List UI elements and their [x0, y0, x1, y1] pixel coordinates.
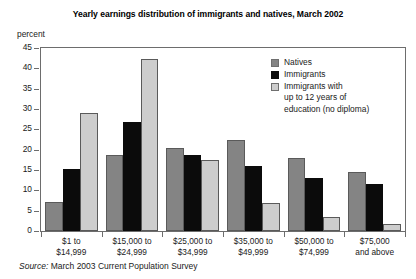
y-axis-tick-label: 10 [23, 184, 32, 194]
bar [366, 184, 384, 231]
x-axis-label-line: and above [344, 247, 405, 258]
bar [348, 172, 366, 231]
legend-label-immigrants-low-education-line2: up to 12 years of [271, 92, 399, 103]
source-text: March 2003 Current Population Survey [48, 261, 197, 271]
x-axis-label-line: $1 to [41, 236, 102, 247]
chart-figure: Yearly earnings distribution of immigran… [0, 0, 416, 279]
x-axis-label: $35,000 to$49,999 [223, 236, 284, 257]
x-axis-separator [405, 232, 406, 237]
bar [305, 178, 323, 231]
legend-swatch-natives [271, 59, 279, 67]
legend-label-immigrants-low-education-line3: education (no diploma) [271, 104, 399, 115]
bar [123, 122, 141, 231]
y-axis-tick-mark [34, 150, 39, 151]
y-axis-unit-label: percent [17, 29, 45, 39]
y-axis-tick-mark [34, 170, 39, 171]
bar-group [162, 48, 223, 231]
x-axis-label-line: $15,000 to [102, 236, 163, 247]
legend-label-immigrants-low-education-line1: Immigrants with [271, 81, 399, 92]
y-axis-tick-label: 20 [23, 144, 32, 154]
x-axis-label-line: $14,999 [41, 247, 102, 258]
legend-swatch-immigrants-low-education [271, 83, 279, 91]
x-axis-label-line: $25,000 to [162, 236, 223, 247]
bar [323, 217, 341, 231]
chart-title: Yearly earnings distribution of immigran… [0, 9, 416, 19]
bar [227, 140, 245, 232]
x-axis-label: $75,000and above [344, 236, 405, 257]
x-axis-label-line: $34,999 [162, 247, 223, 258]
x-axis-label-line: $49,999 [223, 247, 284, 258]
bar-group [41, 48, 102, 231]
x-axis-label: $1 to$14,999 [41, 236, 102, 257]
y-axis-tick-mark [34, 48, 39, 49]
legend-item-immigrants: Immigrants [271, 69, 399, 80]
y-axis-tick-mark [34, 231, 39, 232]
y-axis-tick-label: 0 [27, 225, 32, 235]
bar [80, 113, 98, 231]
source-prefix: Source: [19, 261, 48, 271]
y-axis-tick-mark [34, 129, 39, 130]
x-axis-label-line: $74,999 [284, 247, 345, 258]
y-axis-tick-label: 25 [23, 123, 32, 133]
legend-label-immigrants: Immigrants [271, 69, 399, 80]
source-note: Source: March 2003 Current Population Su… [19, 261, 198, 271]
x-axis-label-line: $50,000 to [284, 236, 345, 247]
bar [141, 59, 159, 231]
y-axis-tick-label: 45 [23, 42, 32, 52]
y-axis-tick-label: 35 [23, 83, 32, 93]
bar [262, 203, 280, 231]
y-axis-tick-mark [34, 190, 39, 191]
x-axis-label: $15,000 to$24,999 [102, 236, 163, 257]
y-axis-tick-mark [34, 89, 39, 90]
bar [383, 224, 401, 231]
bar [184, 155, 202, 231]
legend-item-natives: Natives [271, 57, 399, 68]
y-axis-tick-label: 30 [23, 103, 32, 113]
x-axis-label-line: $24,999 [102, 247, 163, 258]
legend-label-natives: Natives [271, 57, 399, 68]
y-axis-tick-label: 40 [23, 62, 32, 72]
bar-group [102, 48, 163, 231]
bar [106, 155, 124, 231]
x-axis-label-line: $35,000 to [223, 236, 284, 247]
bar [245, 166, 263, 231]
bar [63, 169, 81, 231]
chart-legend: Natives Immigrants Immigrants with up to… [271, 57, 399, 116]
y-axis-tick-label: 15 [23, 164, 32, 174]
y-axis-tick-mark [34, 68, 39, 69]
x-axis-label-line: $75,000 [344, 236, 405, 247]
bar [166, 148, 184, 231]
legend-item-immigrants-low-education: Immigrants with up to 12 years of educat… [271, 81, 399, 115]
bar [201, 160, 219, 231]
bar [45, 202, 63, 231]
legend-swatch-immigrants [271, 71, 279, 79]
bar [288, 158, 306, 231]
x-axis-label: $50,000 to$74,999 [284, 236, 345, 257]
y-axis-tick-label: 5 [27, 205, 32, 215]
y-axis-tick-mark [34, 109, 39, 110]
y-axis-tick-mark [34, 211, 39, 212]
x-axis-label: $25,000 to$34,999 [162, 236, 223, 257]
